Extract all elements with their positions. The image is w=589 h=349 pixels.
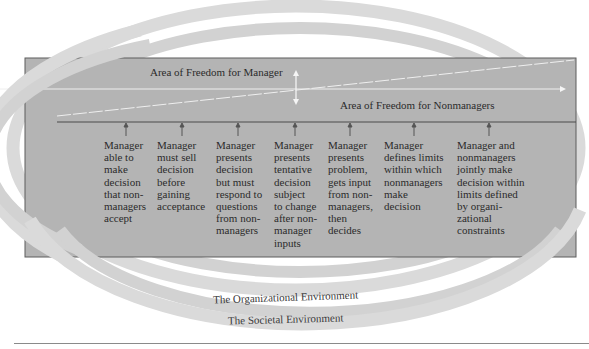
nonmanager-freedom-label: Area of Freedom for Nonmanagers	[340, 99, 495, 111]
behavior-6: Manager defines limits within which nonm…	[384, 139, 444, 212]
leadership-continuum-diagram: Area of Freedom for Manager Area of Free…	[0, 0, 589, 349]
behavior-4: Manager presents tentative decision subj…	[274, 139, 317, 249]
behavior-5: Manager presents problem, gets input fro…	[328, 139, 373, 237]
manager-freedom-label: Area of Freedom for Manager	[150, 66, 283, 78]
behavior-3: Manager presents decision but must respo…	[216, 139, 262, 237]
behavior-2: Manager must sell decision before gainin…	[157, 139, 205, 212]
bottom-rule	[14, 343, 589, 344]
behavior-1: Manager able to make decision that non- …	[104, 139, 146, 224]
behavior-7: Manager and nonmanagers jointly make dec…	[457, 139, 525, 237]
